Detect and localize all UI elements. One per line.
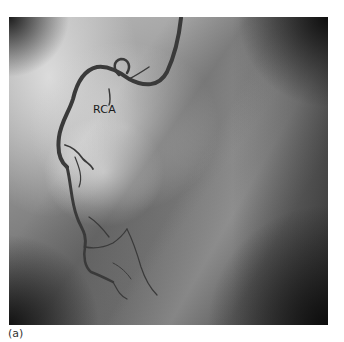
rca-label: RCA	[93, 103, 116, 116]
angiogram-image: RCA	[9, 17, 328, 325]
figure-caption: (a)	[8, 327, 23, 340]
rca-vessel-tree	[9, 17, 328, 325]
